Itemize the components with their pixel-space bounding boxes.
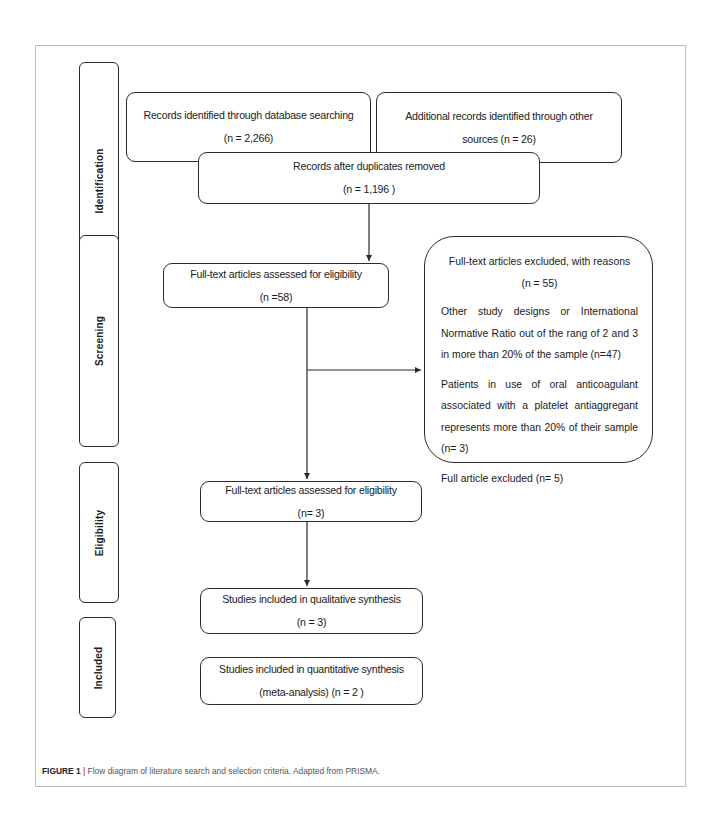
box-qualitative-synthesis: Studies included in qualitative synthesi…: [200, 588, 423, 634]
figure-label: FIGURE 1: [42, 766, 81, 776]
excluded-title: Full-text articles excluded, with reason…: [441, 251, 638, 273]
figure-caption: FIGURE 1 | Flow diagram of literature se…: [42, 766, 380, 776]
box-excluded-articles: Full-text articles excluded, with reason…: [424, 236, 653, 463]
box-duplicates-removed: Records after duplicates removed (n = 1,…: [198, 152, 540, 204]
box-quantitative-synthesis: Studies included in quantitative synthes…: [200, 657, 423, 705]
excluded-reason: Patients in use of oral anticoagulant as…: [441, 374, 638, 460]
excluded-count: (n = 55): [441, 273, 638, 295]
excluded-reason: Full article excluded (n= 5): [441, 468, 638, 490]
caption-text: Flow diagram of literature search and se…: [85, 766, 380, 776]
box-fulltext-screening: Full-text articles assessed for eligibil…: [163, 263, 389, 308]
box-fulltext-eligibility: Full-text articles assessed for eligibil…: [200, 481, 422, 522]
excluded-reason: Other study designs or International Nor…: [441, 301, 638, 366]
